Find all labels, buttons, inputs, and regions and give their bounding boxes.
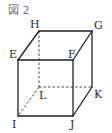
edge-jk — [73, 87, 92, 116]
edge-gf — [73, 31, 92, 60]
vertex-label-l: L — [39, 89, 47, 102]
edge-li — [18, 87, 39, 116]
vertex-label-k: K — [94, 88, 103, 101]
vertex-label-j: J — [69, 118, 74, 131]
vertex-label-g: G — [94, 19, 103, 32]
cube-diagram: 図 2 H G E F L K I J — [0, 0, 112, 133]
vertex-label-f: F — [68, 48, 76, 61]
vertex-label-e: E — [9, 48, 17, 61]
vertex-label-h: H — [30, 18, 40, 31]
edge-he — [18, 31, 39, 60]
vertex-label-i: I — [12, 118, 16, 131]
figure-title: 図 2 — [8, 4, 30, 17]
